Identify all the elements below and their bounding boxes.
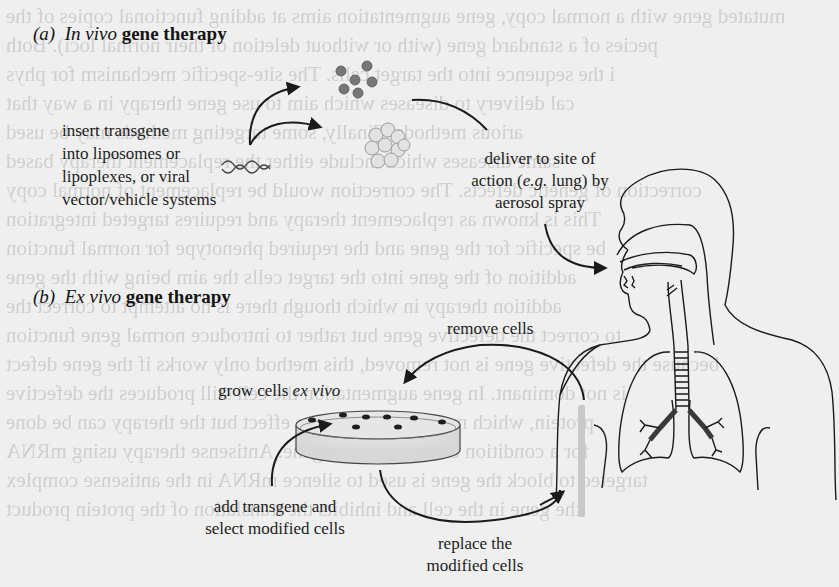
branch-arrows-icon	[250, 87, 320, 145]
heading-bold: gene therapy	[122, 23, 227, 44]
heading-bold: gene therapy	[126, 286, 231, 307]
label-line: replace the	[405, 533, 545, 555]
heading-italic: In vivo	[65, 23, 117, 44]
label-text: action (	[471, 171, 522, 190]
heading-ex-vivo: (b) Ex vivo gene therapy	[33, 286, 231, 308]
deliver-arrow-arc	[412, 100, 487, 130]
label-line: modified cells	[405, 555, 545, 577]
heading-in-vivo: (a) In vivo gene therapy	[33, 23, 227, 45]
dna-strand-icon	[222, 161, 270, 173]
heading-tag: (b)	[33, 286, 55, 307]
replace-cells-arrowhead	[540, 492, 563, 505]
label-text: lung) by	[547, 171, 608, 190]
viral-vector-particles-icon	[336, 61, 377, 98]
label-grow-cells: grow cells ex vivo	[218, 380, 340, 401]
label-remove-cells: remove cells	[447, 318, 533, 339]
label-line: into liposomes or	[62, 142, 216, 165]
petri-dish-icon	[296, 411, 460, 464]
heading-italic: Ex vivo	[65, 286, 121, 307]
label-replace-cells: replace the modified cells	[405, 533, 545, 577]
label-line: add transgene and	[190, 496, 360, 518]
replace-cells-arrow	[380, 470, 560, 522]
label-line: aerosol spray	[450, 192, 630, 214]
aerosol-arrow	[545, 224, 605, 268]
label-line: deliver to site of	[450, 148, 630, 170]
label-insert-transgene: insert transgene into liposomes or lipop…	[62, 119, 216, 211]
remove-cells-arrow	[405, 345, 584, 400]
label-text: grow cells	[218, 381, 293, 400]
label-italic: ex vivo	[293, 381, 341, 400]
label-line: vector/vehicle systems	[62, 188, 216, 211]
label-add-transgene: add transgene and select modified cells	[190, 496, 360, 540]
label-line: action (e.g. lung) by	[450, 170, 630, 192]
injection-bar-icon	[578, 405, 585, 517]
heading-tag: (a)	[33, 23, 55, 44]
label-deliver: deliver to site of action (e.g. lung) by…	[450, 148, 630, 214]
liposome-cluster-icon	[365, 123, 410, 168]
label-italic: e.g.	[523, 171, 548, 190]
label-line: select modified cells	[190, 518, 360, 540]
label-line: lipoplexes, or viral	[62, 165, 216, 188]
label-line: insert transgene	[62, 119, 216, 142]
human-head-torso-airway-icon	[556, 169, 836, 500]
